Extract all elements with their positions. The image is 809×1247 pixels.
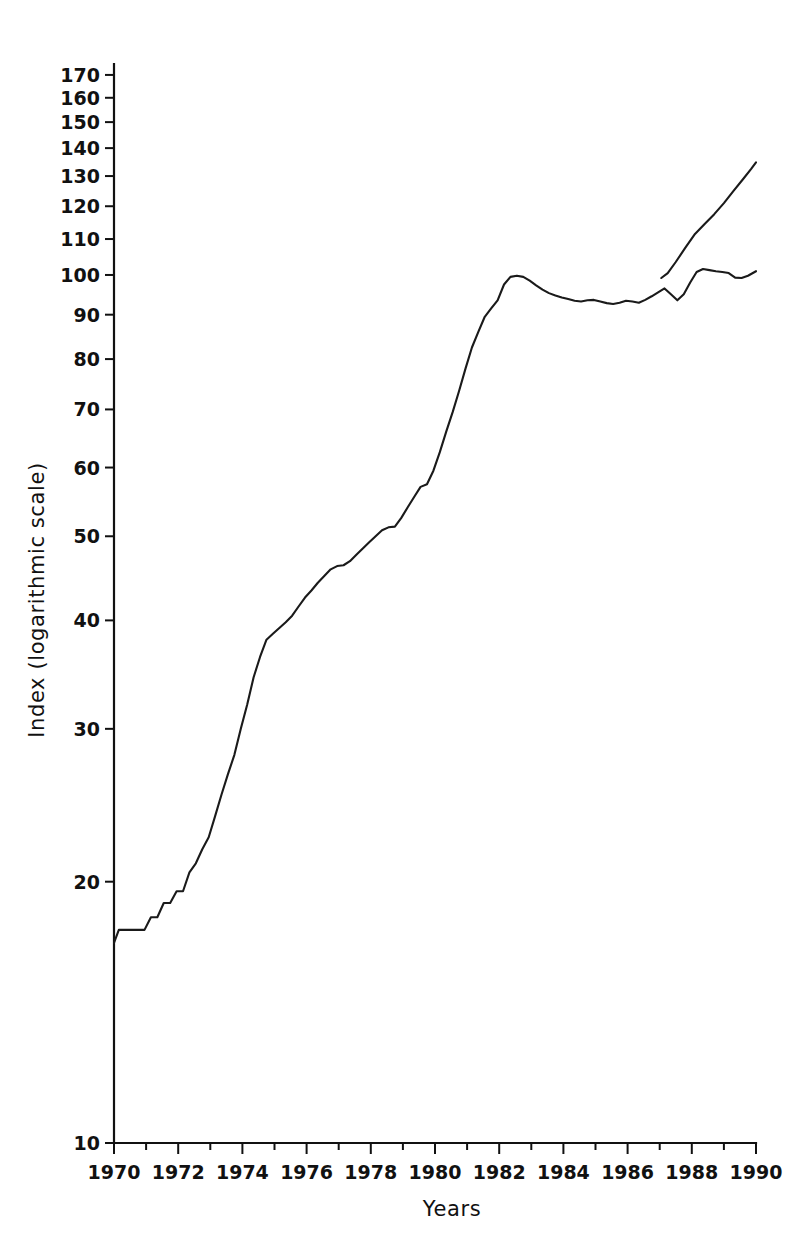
x-tick-label-1978: 1978 <box>344 1161 397 1183</box>
x-tick-label-1982: 1982 <box>473 1161 526 1183</box>
y-tick-label-110: 110 <box>60 228 100 250</box>
x-axis-tick-labels: 1970197219741976197819801982198419861988… <box>88 1161 783 1183</box>
chart-container: 1020304050607080901001101201301401501601… <box>0 0 809 1247</box>
x-axis-title: Years <box>422 1197 481 1221</box>
data-series-group <box>114 162 756 943</box>
y-axis-title: Index (logarithmic scale) <box>25 462 49 737</box>
y-tick-label-40: 40 <box>74 609 100 631</box>
x-tick-label-1980: 1980 <box>409 1161 462 1183</box>
y-tick-label-130: 130 <box>60 165 100 187</box>
line-chart: 1020304050607080901001101201301401501601… <box>0 0 809 1247</box>
y-tick-label-100: 100 <box>60 264 100 286</box>
y-tick-label-120: 120 <box>60 195 100 217</box>
y-tick-label-20: 20 <box>74 871 100 893</box>
y-tick-label-10: 10 <box>74 1132 100 1154</box>
x-axis-ticks <box>114 1143 756 1154</box>
y-tick-label-140: 140 <box>60 137 100 159</box>
y-axis-ticks <box>105 75 114 1143</box>
x-tick-label-1984: 1984 <box>537 1161 590 1183</box>
y-tick-label-50: 50 <box>74 525 100 547</box>
y-tick-label-60: 60 <box>74 457 100 479</box>
y-tick-label-160: 160 <box>60 87 100 109</box>
y-tick-label-30: 30 <box>74 718 100 740</box>
y-tick-label-150: 150 <box>60 111 100 133</box>
x-tick-label-1986: 1986 <box>601 1161 654 1183</box>
x-tick-label-1974: 1974 <box>216 1161 269 1183</box>
data-line-2 <box>661 162 756 278</box>
x-tick-label-1988: 1988 <box>665 1161 718 1183</box>
x-tick-label-1976: 1976 <box>280 1161 333 1183</box>
y-tick-label-170: 170 <box>60 64 100 86</box>
y-tick-label-80: 80 <box>74 348 100 370</box>
y-axis-tick-labels: 1020304050607080901001101201301401501601… <box>60 64 100 1154</box>
x-tick-label-1972: 1972 <box>152 1161 205 1183</box>
y-tick-label-70: 70 <box>74 398 100 420</box>
x-tick-label-1990: 1990 <box>730 1161 783 1183</box>
y-tick-label-90: 90 <box>74 304 100 326</box>
x-tick-label-1970: 1970 <box>88 1161 141 1183</box>
axis-lines <box>114 64 756 1143</box>
data-line-1 <box>114 269 756 943</box>
